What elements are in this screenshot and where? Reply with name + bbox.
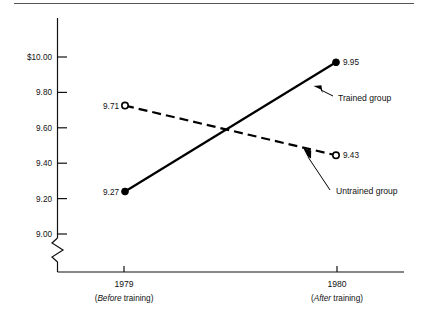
y-tick-label-10-00: $10.00 <box>27 53 52 62</box>
x-category-label-1980: 1980 <box>327 279 346 289</box>
x-category-label-1979: 1979 <box>114 279 133 289</box>
figure-container: $10.00 9.80 9.60 9.40 9.20 9.00 9.71 9.4… <box>0 0 423 314</box>
annotation-trained-label: Trained group <box>338 93 391 103</box>
y-tick-label-9-40: 9.40 <box>36 159 52 168</box>
line-chart: $10.00 9.80 9.60 9.40 9.20 9.00 9.71 9.4… <box>0 0 423 314</box>
annotation-untrained-label: Untrained group <box>336 186 398 196</box>
data-point-untrained-1980 <box>333 152 339 158</box>
x-axis <box>58 266 405 272</box>
x-category-labels: 1979 (Before training) 1980 (After train… <box>95 279 364 303</box>
point-label-untrained-1979: 9.71 <box>103 102 119 111</box>
x-category-sublabel-1979: (Before training) <box>95 294 154 303</box>
annotation-trained-group: Trained group <box>314 85 392 103</box>
y-tick-label-9-00: 9.00 <box>36 230 52 239</box>
series-untrained-line <box>125 106 336 156</box>
x-sublabel-1980-emphasis: After <box>313 294 332 303</box>
y-tick-label-9-80: 9.80 <box>36 88 52 97</box>
y-tick-marks <box>58 57 68 234</box>
series-trained-line <box>125 62 336 191</box>
y-axis-break-zigzag <box>52 238 63 272</box>
y-tick-label-9-20: 9.20 <box>36 195 52 204</box>
x-sublabel-1979-emphasis: Before <box>97 294 122 303</box>
data-point-trained-1979 <box>122 188 129 195</box>
point-label-trained-1979: 9.27 <box>103 188 119 197</box>
annotation-untrained-leader <box>308 157 330 190</box>
data-point-untrained-1979 <box>122 102 128 108</box>
data-point-trained-1980 <box>333 59 340 66</box>
y-tick-labels: $10.00 9.80 9.60 9.40 9.20 9.00 <box>27 53 52 239</box>
x-sublabel-1980-rest: training) <box>331 294 363 303</box>
series-trained-group <box>122 59 340 195</box>
y-tick-label-9-60: 9.60 <box>36 124 52 133</box>
annotation-trained-leader <box>321 90 333 96</box>
x-sublabel-1979-rest: training) <box>122 294 154 303</box>
annotation-trained-arrowhead <box>314 85 323 93</box>
point-label-trained-1980: 9.95 <box>343 58 359 67</box>
x-category-sublabel-1980: (After training) <box>311 294 363 303</box>
point-label-untrained-1980: 9.43 <box>343 151 359 160</box>
